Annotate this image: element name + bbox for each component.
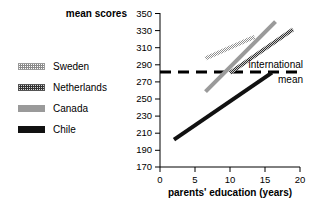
x-tick-15: 15: [260, 174, 271, 185]
x-tick-0: 0: [157, 174, 162, 185]
y-tick-270: 270: [136, 76, 152, 87]
x-axis-title: parents' education (years): [168, 187, 292, 198]
x-tick-20: 20: [295, 174, 306, 185]
series-line-chile: [174, 73, 272, 140]
x-tick-10: 10: [225, 174, 236, 185]
y-tick-350: 350: [136, 8, 152, 19]
y-tick-230: 230: [136, 110, 152, 121]
y-tick-290: 290: [136, 59, 152, 70]
y-tick-310: 310: [136, 42, 152, 53]
chart-svg: mean scores 350 330 310 290 270 250 230 …: [0, 0, 310, 213]
y-tick-250: 250: [136, 93, 152, 104]
international-mean-label-line1: international: [249, 59, 303, 70]
x-tick-5: 5: [192, 174, 197, 185]
y-tick-170: 170: [136, 161, 152, 172]
chart-plot-area: mean scores 350 330 310 290 270 250 230 …: [0, 0, 310, 213]
y-axis-ticks: [155, 14, 160, 168]
series-line-canada: [206, 22, 276, 92]
x-axis-ticks: [160, 167, 300, 172]
y-tick-190: 190: [136, 144, 152, 155]
y-axis-title: mean scores: [66, 8, 128, 19]
y-tick-330: 330: [136, 25, 152, 36]
international-mean-label-line2: mean: [278, 74, 303, 85]
y-tick-210: 210: [136, 127, 152, 138]
chart-screenshot: Sweden Netherlands Canada Chile: [0, 0, 310, 213]
